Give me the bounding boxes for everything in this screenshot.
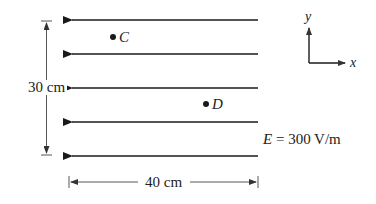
field-magnitude-label: E = 300 V/m [263, 132, 341, 147]
field-value: 300 V/m [288, 131, 341, 147]
horizontal-dimension-label: 40 cm [142, 175, 185, 190]
field-lines [72, 20, 258, 156]
point-c-label: C [119, 30, 129, 45]
axes-indicator [309, 28, 345, 63]
point-c-dot [110, 34, 116, 40]
electric-field-diagram: C D 30 cm 40 cm E = 300 V/m y x [0, 0, 376, 204]
field-equals: = [272, 131, 288, 147]
diagram-canvas [0, 0, 376, 204]
field-symbol: E [263, 131, 272, 147]
point-d-dot [203, 101, 209, 107]
vertical-dimension-label: 30 cm [26, 80, 67, 95]
x-axis-label: x [350, 56, 356, 70]
y-axis-label: y [305, 10, 311, 24]
point-d-label: D [212, 97, 223, 112]
